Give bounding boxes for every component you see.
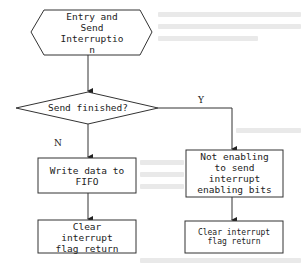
flowchart: Entry and Send Interruptio n Send finish…	[0, 0, 301, 268]
decision-label: Send finished?	[20, 102, 156, 113]
edge-label-no: N	[54, 138, 62, 148]
clear-right-label: Clear interrupt flag return	[185, 228, 283, 246]
disable-interrupt-label: Not enabling to send interrupt enabling …	[186, 151, 283, 195]
clear-left-label: Clear interrupt flag return	[38, 221, 136, 254]
edge-label-yes: Y	[198, 95, 204, 105]
edge-decision-disable	[158, 108, 232, 149]
start-label: Entry and Send Interruptio n	[44, 11, 140, 55]
write-fifo-label: Write data to FIFO	[38, 165, 136, 187]
